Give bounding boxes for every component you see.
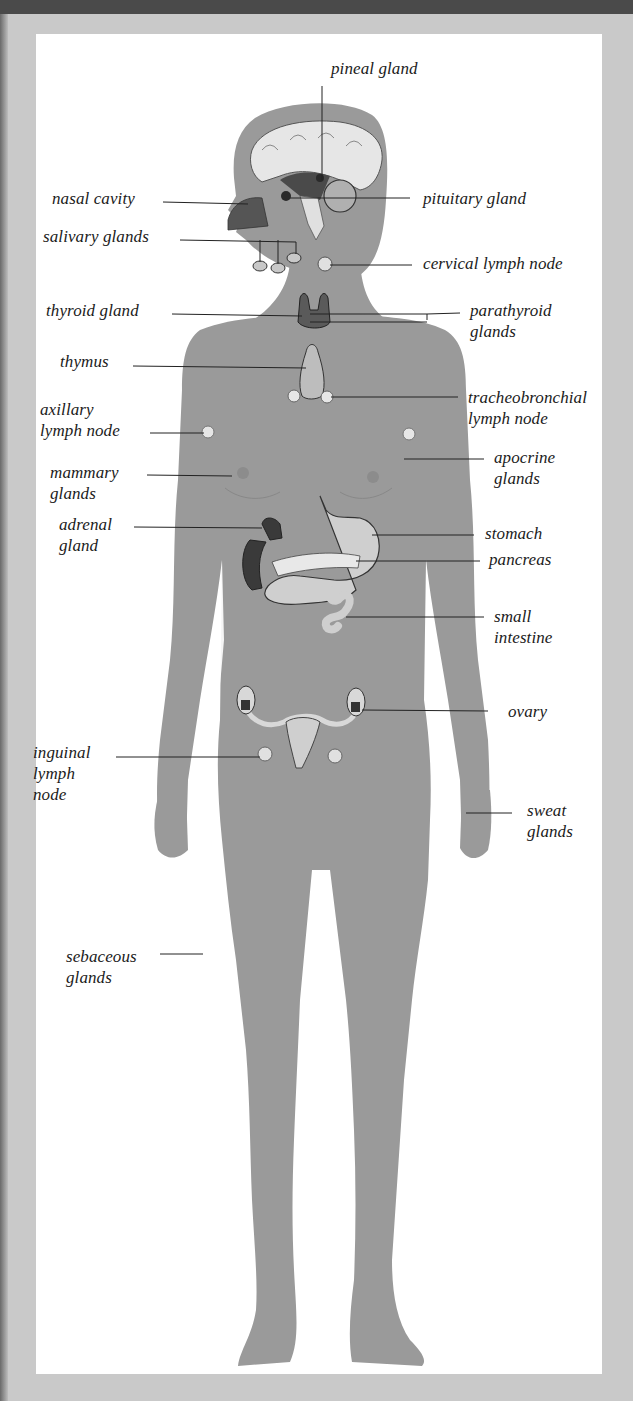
label-cervical-lymph-node: cervical lymph node [423, 253, 563, 274]
label-parathyroid-glands: parathyroid glands [470, 300, 552, 342]
mammary-gland-left-icon [237, 467, 249, 479]
label-ovary: ovary [508, 701, 547, 722]
label-stomach: stomach [485, 523, 542, 544]
label-thyroid-gland: thyroid gland [46, 300, 139, 321]
pituitary-gland-icon [281, 191, 291, 201]
label-salivary-glands: salivary glands [43, 226, 149, 247]
label-thymus: thymus [60, 351, 109, 372]
label-pituitary-gland: pituitary gland [423, 188, 526, 209]
axillary-lymph-node-left-icon [202, 426, 214, 438]
inguinal-lymph-node-right-icon [328, 749, 342, 763]
pineal-gland-icon [316, 174, 324, 182]
axillary-lymph-node-right-icon [403, 428, 415, 440]
label-mammary-glands: mammary glands [50, 462, 119, 504]
label-adrenal-gland: adrenal gland [59, 514, 112, 556]
label-sweat-glands: sweat glands [527, 800, 573, 842]
label-apocrine-glands: apocrine glands [494, 447, 555, 489]
inguinal-lymph-node-left-icon [258, 747, 272, 761]
label-tracheobronchial-lymph-node: tracheobronchial lymph node [468, 387, 587, 429]
label-small-intestine: small intestine [494, 606, 553, 648]
label-pineal-gland: pineal gland [331, 58, 418, 79]
label-axillary-lymph-node: axillary lymph node [40, 399, 120, 441]
tracheobronchial-lymph-node-left-icon [288, 390, 300, 402]
mammary-gland-right-icon [367, 471, 379, 483]
label-nasal-cavity: nasal cavity [52, 188, 135, 209]
label-pancreas: pancreas [489, 549, 552, 570]
label-sebaceous-glands: sebaceous glands [66, 946, 137, 988]
label-inguinal-lymph-node: inguinal lymph node [33, 742, 90, 805]
cervical-lymph-node-icon [318, 257, 332, 271]
